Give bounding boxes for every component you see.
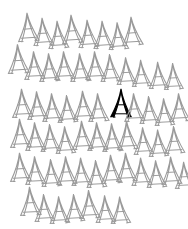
eiffel-tower-icon: [120, 15, 144, 46]
eiffel-tower-icon: [109, 195, 131, 224]
eiffel-tower-icon: [87, 92, 110, 122]
eiffel-tower-icon: [163, 125, 186, 155]
eiffel-tower-icon: [173, 161, 188, 190]
eiffel-tower-icon: [162, 62, 184, 91]
tower-pattern-canvas: [0, 0, 188, 229]
eiffel-tower-icon: [168, 92, 188, 122]
